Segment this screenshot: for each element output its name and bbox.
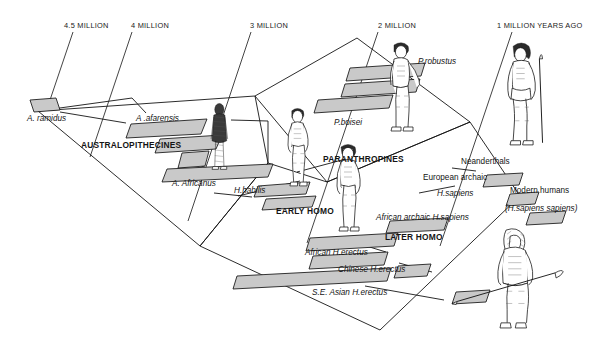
figure-modern-human: [452, 229, 563, 328]
group-label-early-homo: EARLY HOMO: [276, 207, 334, 216]
taxon-label-african-h-erectus: African H.erectus: [305, 249, 368, 258]
group-label-paranthropines: PARANTHROPINES: [323, 155, 404, 164]
taxon-label-european-archaic: European archaic: [423, 174, 487, 183]
figure-archaic-sapiens: [508, 43, 543, 145]
taxon-label-a-africanus: A. Africanus: [172, 180, 216, 189]
bar-european-archaic-h-sapiens: [483, 173, 523, 187]
group-label-later-homo: LATER HOMO: [385, 233, 443, 242]
bar-p-boisei: [314, 95, 393, 113]
tick-label-4-million: 4 MILLION: [131, 22, 169, 30]
range-bars: [30, 63, 566, 304]
taxon-label-se-asian-h-erectus: S.E. Asian H.erectus: [312, 289, 387, 298]
group-label-australopithecines: AUSTRALOPITHECINES: [81, 141, 181, 150]
taxon-label-p-boisei: P.boisei: [334, 119, 362, 128]
figure-afarensis: [211, 104, 228, 170]
tick-label-1-million: 1 MILLION YEARS AGO: [497, 22, 583, 30]
figure-habilis: [288, 108, 308, 185]
bar-a-ramidus: [30, 98, 60, 112]
taxon-label-modern-humans-species: (H.sapiens sapiens): [505, 205, 577, 214]
taxon-label-a-ramidus: A. ramidus: [27, 115, 66, 124]
taxon-label-chinese-h-erectus: Chinese H.erectus: [338, 266, 405, 275]
taxon-label-modern-humans: Modern humans: [510, 187, 569, 196]
taxon-label-african-archaic-h-sapiens: African archaic H.sapiens: [376, 214, 469, 223]
taxon-label-a-afarensis: A .afarensis: [136, 115, 179, 124]
tick-label-2-million: 2 MILLION: [378, 22, 416, 30]
taxon-label-neanderthals: Neanderthals: [461, 158, 510, 167]
tick-label-4-5-million: 4.5 MILLION: [64, 22, 109, 30]
taxon-label-european-archaic-species: H.sapiens: [437, 190, 473, 199]
timeline-canvas: .ln{fill:none;stroke:#141414;stroke-widt…: [0, 0, 605, 341]
taxon-label-h-habilis: H.habilis: [234, 187, 265, 196]
bar-a-africanus: [178, 151, 209, 168]
taxon-label-p-robustus: P.robustus: [418, 58, 456, 67]
tick-label-3-million: 3 MILLION: [250, 22, 288, 30]
evolution-timeline-figure: .ln{fill:none;stroke:#141414;stroke-widt…: [0, 0, 605, 341]
